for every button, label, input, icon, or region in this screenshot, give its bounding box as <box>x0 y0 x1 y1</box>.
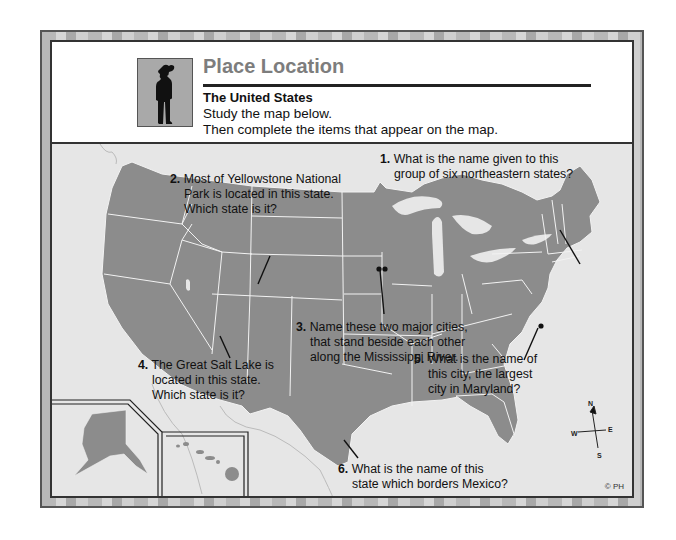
question-5: 5. What is the name of this city, the la… <box>414 352 537 397</box>
compass-s: S <box>597 452 602 459</box>
person-silhouette-icon <box>137 58 193 127</box>
page-subtitle: The United States <box>203 90 313 105</box>
us-map: N W E S 1. What is the name given to thi… <box>52 144 632 496</box>
compass-e: E <box>608 426 613 433</box>
instruction-line-2: Then complete the items that appear on t… <box>203 122 498 137</box>
worksheet: Place Location The United States Study t… <box>50 40 634 498</box>
question-1: 1. What is the name given to this group … <box>380 152 573 182</box>
compass-n: N <box>588 400 593 407</box>
decorative-frame: Place Location The United States Study t… <box>40 30 644 508</box>
instruction-line-1: Study the map below. <box>203 106 332 121</box>
worksheet-header: Place Location The United States Study t… <box>52 42 632 144</box>
question-2: 2. Most of Yellowstone National Park is … <box>170 172 341 217</box>
title-rule <box>203 84 591 87</box>
question-4: 4. The Great Salt Lake is located in thi… <box>138 358 274 403</box>
compass-w: W <box>571 430 578 437</box>
page-title: Place Location <box>203 55 344 78</box>
question-6: 6. What is the name of this state which … <box>338 462 508 492</box>
copyright: © PH <box>605 482 624 491</box>
compass-rose <box>578 406 606 448</box>
